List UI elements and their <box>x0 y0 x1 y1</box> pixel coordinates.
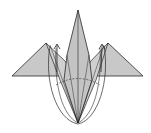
origami-crane-diagram <box>0 0 151 133</box>
